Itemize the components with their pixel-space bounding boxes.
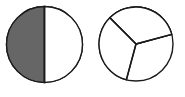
left-pie-slice-left-half-unshaded [45,7,83,83]
left-pie-group [7,7,83,83]
fraction-pie-figure [0,0,185,97]
pie-diagram-svg [0,0,185,97]
right-pie-group [99,7,173,81]
